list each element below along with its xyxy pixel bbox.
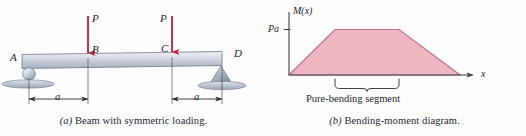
- moment-area: [289, 30, 460, 76]
- beam-body: [22, 52, 222, 69]
- caption-panel-a: (a) Beam with symmetric loading.: [2, 115, 265, 126]
- point-label-d: D: [234, 48, 242, 59]
- caption-tag-b: (b): [329, 115, 342, 126]
- roller-support: [2, 68, 54, 88]
- load-label-p-b: P: [92, 13, 99, 24]
- pure-bending-brace: [335, 79, 399, 92]
- caption-tag-a: (a): [60, 115, 73, 126]
- y-axis-label: M(x): [293, 6, 312, 16]
- load-label-p-c: P: [160, 13, 167, 24]
- caption-panel-b: (b) Bending-moment diagram.: [263, 115, 526, 126]
- x-axis-label: x: [481, 69, 485, 79]
- panel-bending-moment-diagram: M(x) x Pa Pure-bending segment (b) Bendi…: [263, 0, 526, 136]
- caption-text-b: Bending-moment diagram.: [342, 115, 460, 126]
- point-label-a: A: [10, 52, 17, 63]
- caption-text-a: Beam with symmetric loading.: [72, 115, 207, 126]
- y-tick-label-pa: Pa: [268, 24, 279, 34]
- panel-beam-diagram: A B C D P P a a (a) Beam with symmetric …: [0, 0, 263, 136]
- dimension-label-a-left: a: [55, 92, 60, 103]
- figure-container: A B C D P P a a (a) Beam with symmetric …: [0, 0, 526, 136]
- dimension-label-a-right: a: [194, 92, 199, 103]
- point-label-c: C: [161, 43, 168, 54]
- point-label-b: B: [92, 44, 99, 55]
- pure-bending-segment-label: Pure-bending segment: [306, 93, 400, 104]
